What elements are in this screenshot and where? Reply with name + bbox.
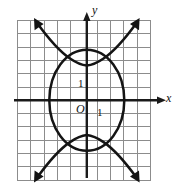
y-axis-arrowhead [83,12,90,21]
y-unit-tick-label: 1 [78,78,84,89]
x-unit-tick-label: 1 [97,107,103,118]
x-axis [14,97,166,104]
graph-canvas [0,0,180,191]
origin-label: O [76,103,85,115]
x-axis-arrowhead [157,97,166,104]
y-axis-label: y [92,4,97,16]
x-axis-label: x [166,92,171,104]
math-figure: x y O 1 1 [0,0,180,191]
